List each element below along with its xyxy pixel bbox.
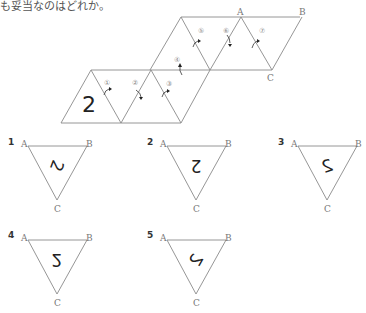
option-glyph: 2 — [52, 250, 63, 270]
figure-canvas: 2 A B C ① ② ③ ④ ⑤ ⑥ ⑦ 1 A B C 2 — [0, 0, 366, 313]
net-vertex-b: B — [299, 7, 306, 17]
fold-marker-3: ③ — [166, 80, 172, 88]
option-glyph: 2 — [318, 155, 335, 177]
option-vertex-b: B — [86, 233, 93, 243]
fold-marker-7: ⑦ — [259, 27, 265, 35]
option-5[interactable]: 5 A B C 2 — [147, 230, 232, 308]
option-number: 3 — [278, 137, 284, 147]
option-vertex-c: C — [324, 204, 331, 214]
option-vertex-c: C — [54, 204, 61, 214]
fold-marker-1: ① — [104, 79, 110, 87]
option-vertex-a: A — [20, 233, 28, 243]
option-4[interactable]: 4 A B C 2 — [8, 230, 93, 308]
option-glyph: 2 — [185, 250, 208, 269]
option-number: 1 — [8, 137, 14, 147]
option-2[interactable]: 2 A B C 2 — [147, 137, 232, 214]
option-vertex-b: B — [225, 139, 232, 149]
fold-arrow-icons — [104, 35, 260, 100]
option-vertex-b: B — [86, 139, 93, 149]
octahedron-net: 2 A B C ① ② ③ ④ ⑤ ⑥ ⑦ — [61, 7, 306, 123]
option-vertex-b: B — [355, 139, 362, 149]
option-1[interactable]: 1 A B C 2 — [8, 137, 93, 214]
net-face-digit: 2 — [82, 92, 96, 117]
option-glyph: 2 — [46, 157, 68, 174]
option-3[interactable]: 3 A B C 2 — [278, 137, 362, 214]
option-number: 5 — [147, 230, 153, 240]
option-vertex-c: C — [193, 204, 200, 214]
net-vertex-a: A — [236, 7, 244, 17]
option-vertex-a: A — [159, 139, 167, 149]
fold-marker-2: ② — [132, 79, 138, 87]
fold-marker-4: ④ — [174, 56, 180, 64]
option-vertex-a: A — [159, 233, 167, 243]
option-vertex-b: B — [225, 233, 232, 243]
option-vertex-a: A — [290, 139, 298, 149]
option-number: 2 — [147, 137, 153, 147]
option-vertex-a: A — [20, 139, 28, 149]
fold-marker-5: ⑤ — [198, 27, 204, 35]
option-glyph: 2 — [191, 156, 202, 176]
net-vertex-c: C — [267, 73, 274, 83]
option-vertex-c: C — [54, 298, 61, 308]
option-vertex-c: C — [193, 298, 200, 308]
fold-marker-6: ⑥ — [223, 27, 229, 35]
option-number: 4 — [8, 230, 14, 240]
